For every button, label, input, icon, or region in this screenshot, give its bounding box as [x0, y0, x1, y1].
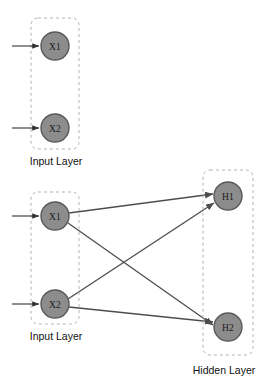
layer-caption-hidden-group: Hidden Layer: [193, 364, 256, 376]
neuron-label-x1-top: X1: [49, 42, 61, 52]
neural-network-diagram: X1X2Input LayerX1X2Input LayerH1H2Hidden…: [0, 0, 269, 387]
edges-group: [68, 194, 214, 325]
layer-caption-input-group-top: Input Layer: [30, 155, 83, 167]
layer-group-hidden-group: H1H2Hidden Layer: [193, 170, 256, 376]
diagram-canvas: X1X2Input LayerX1X2Input LayerH1H2Hidden…: [0, 0, 269, 387]
layer-caption-input-group-bottom: Input Layer: [30, 330, 83, 342]
layer-group-input-group-bottom: X1X2Input Layer: [12, 192, 83, 342]
layer-groups: X1X2Input LayerX1X2Input LayerH1H2Hidden…: [12, 18, 256, 376]
neuron-label-x1-bottom: X1: [49, 212, 61, 222]
neuron-label-x2-bottom: X2: [49, 300, 61, 310]
connection-x1-bottom-to-h1: [69, 194, 213, 213]
neuron-label-x2-top: X2: [49, 124, 61, 134]
connection-x2-bottom-to-h1: [68, 203, 214, 299]
neuron-label-h2: H2: [222, 323, 234, 333]
neuron-label-h1: H1: [222, 192, 234, 202]
layer-group-input-group-top: X1X2Input Layer: [12, 18, 83, 167]
